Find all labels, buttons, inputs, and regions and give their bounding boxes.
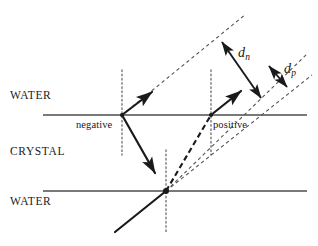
negative-exit-point-dot <box>120 113 124 117</box>
positive-ray-in-crystal-group <box>166 115 211 191</box>
positive-exit-point-dot <box>209 113 213 117</box>
distance-symbol-d-p: d <box>284 61 291 76</box>
distance-label-d-n: dn <box>238 46 250 60</box>
positive-ray-in-crystal-path <box>166 115 211 191</box>
ray-optics-diagram: WATER CRYSTAL WATER negative positive dn… <box>0 0 318 246</box>
vertex-markers <box>120 113 213 194</box>
medium-label-water-top: WATER <box>10 90 51 102</box>
distance-symbol-d-n: d <box>238 45 245 60</box>
measurement-arrows <box>222 42 287 98</box>
distance-label-d-p: dp <box>284 62 296 76</box>
negative-ray-in-crystal-path <box>122 115 155 173</box>
entry-point-dot <box>163 188 169 194</box>
charge-label-negative: negative <box>76 120 112 131</box>
distance-subscript-n: n <box>245 52 250 62</box>
ray-paths <box>115 91 241 232</box>
diagram-canvas <box>0 0 318 246</box>
normal-lines <box>122 70 211 232</box>
medium-label-crystal: CRYSTAL <box>10 146 65 158</box>
positive-ray-in-water-path <box>211 91 241 115</box>
charge-label-positive: positive <box>213 120 247 131</box>
distance-subscript-p: p <box>291 68 296 78</box>
negative-ray-in-water-path <box>122 92 152 115</box>
medium-label-water-bottom: WATER <box>10 196 51 208</box>
incident-ray-path <box>115 191 166 232</box>
